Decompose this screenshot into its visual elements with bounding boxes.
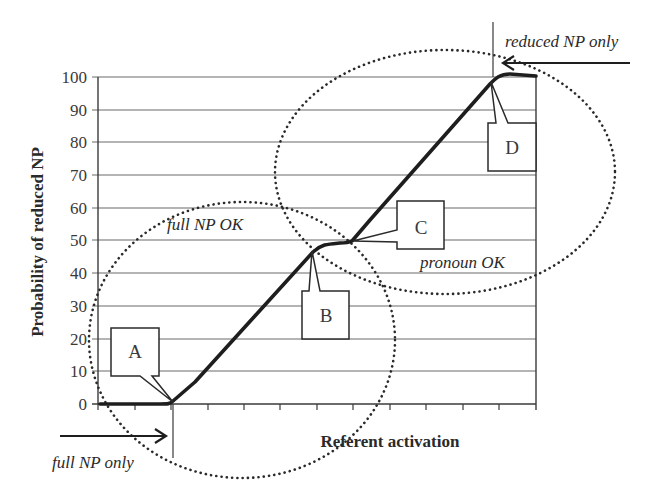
pronoun-ok-label: pronoun OK [419, 253, 507, 272]
ytick-50: 50 [70, 231, 87, 250]
full-np-only-arrow [60, 429, 166, 443]
ytick-100: 100 [62, 68, 88, 87]
ytick-0: 0 [79, 395, 88, 414]
ytick-20: 20 [70, 330, 87, 349]
ytick-40: 40 [70, 264, 87, 283]
callout-c-label: C [415, 217, 428, 238]
callout-d-label: D [505, 137, 519, 158]
ytick-60: 60 [70, 199, 87, 218]
chart: 0 10 20 30 40 50 60 70 80 90 100 Probabi… [0, 0, 658, 497]
reduced-np-only-arrow [503, 56, 630, 70]
x-axis-label: Referent activation [321, 432, 460, 451]
y-tick-labels: 0 10 20 30 40 50 60 70 80 90 100 [62, 68, 88, 414]
callout-b-label: B [320, 305, 333, 326]
y-axis-label: Probability of reduced NP [28, 147, 47, 337]
callout-b: B [302, 251, 349, 339]
probability-curve [100, 74, 536, 404]
callout-d: D [488, 82, 536, 171]
full-np-only-label: full NP only [52, 453, 134, 472]
ytick-90: 90 [70, 101, 87, 120]
ytick-70: 70 [70, 166, 87, 185]
ytick-30: 30 [70, 297, 87, 316]
callout-a-label: A [128, 341, 142, 362]
full-np-ok-label: full NP OK [167, 215, 245, 234]
ytick-10: 10 [70, 362, 87, 381]
reduced-np-only-label: reduced NP only [505, 32, 619, 51]
ytick-80: 80 [70, 133, 87, 152]
